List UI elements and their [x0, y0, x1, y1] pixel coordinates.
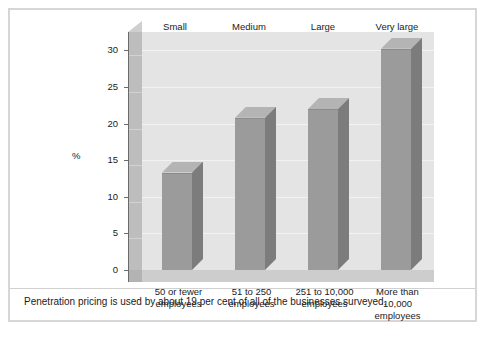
y-tick-mark	[124, 197, 128, 198]
gridline-wall-segment	[128, 129, 142, 130]
category-header-label: Very large	[360, 21, 434, 32]
bar-side-face	[411, 38, 422, 270]
y-tick-mark	[124, 124, 128, 125]
bar-front-face	[308, 109, 338, 270]
bar-front-face	[381, 49, 411, 270]
y-tick-label: 30	[90, 44, 118, 55]
bar-column[interactable]	[308, 98, 349, 270]
bar-column[interactable]	[235, 107, 276, 270]
gridline-wall-segment	[128, 202, 142, 203]
y-axis-title: %	[72, 150, 80, 161]
y-tick-mark	[124, 160, 128, 161]
bar-chart: SmallMediumLargeVery large % 05101520253…	[10, 10, 475, 285]
figure-frame: SmallMediumLargeVery large % 05101520253…	[8, 8, 477, 322]
bar-column[interactable]	[162, 162, 203, 270]
category-header-label: Small	[138, 21, 212, 32]
bar-side-face	[338, 98, 349, 270]
plot-floor-front	[128, 270, 142, 282]
gridline-wall-segment	[128, 165, 142, 166]
y-tick-label: 20	[90, 118, 118, 129]
y-tick-label: 0	[90, 264, 118, 275]
plot-floor	[128, 270, 434, 282]
figure-caption: Penetration pricing is used by about 19 …	[24, 296, 464, 307]
bar-front-face	[162, 173, 192, 270]
bar-column[interactable]	[381, 38, 422, 270]
y-tick-mark	[124, 233, 128, 234]
category-header-label: Large	[286, 21, 360, 32]
y-tick-mark	[124, 50, 128, 51]
bar-front-face	[235, 118, 265, 270]
y-tick-mark	[124, 87, 128, 88]
bar-side-face	[265, 107, 276, 270]
bar-side-face	[192, 162, 203, 270]
y-tick-label: 10	[90, 191, 118, 202]
gridline-wall-segment	[128, 55, 142, 56]
y-axis-line	[128, 32, 129, 282]
y-tick-mark	[124, 270, 128, 271]
gridline-wall-segment	[128, 92, 142, 93]
plot-left-wall-bevel	[128, 21, 142, 32]
y-tick-label: 15	[90, 154, 118, 165]
category-header-label: Medium	[212, 21, 286, 32]
y-tick-label: 25	[90, 81, 118, 92]
y-tick-label: 5	[90, 227, 118, 238]
plot-area	[128, 32, 434, 282]
gridline-wall-segment	[128, 238, 142, 239]
plot-left-wall	[128, 32, 142, 270]
caption-divider	[10, 288, 475, 289]
